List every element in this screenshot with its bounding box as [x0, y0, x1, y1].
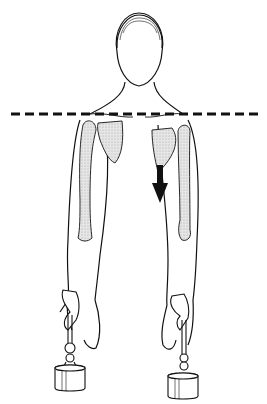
- left-humerus: [78, 121, 96, 241]
- right-humerus: [178, 125, 191, 240]
- anatomy-illustration: [0, 0, 267, 404]
- depression-arrow-icon: [152, 165, 168, 203]
- left-weight: [55, 290, 85, 391]
- right-scapula: [152, 128, 176, 172]
- left-scapula: [98, 121, 123, 163]
- torso-outline: [90, 82, 183, 117]
- head: [116, 13, 163, 86]
- right-arm: [152, 120, 198, 349]
